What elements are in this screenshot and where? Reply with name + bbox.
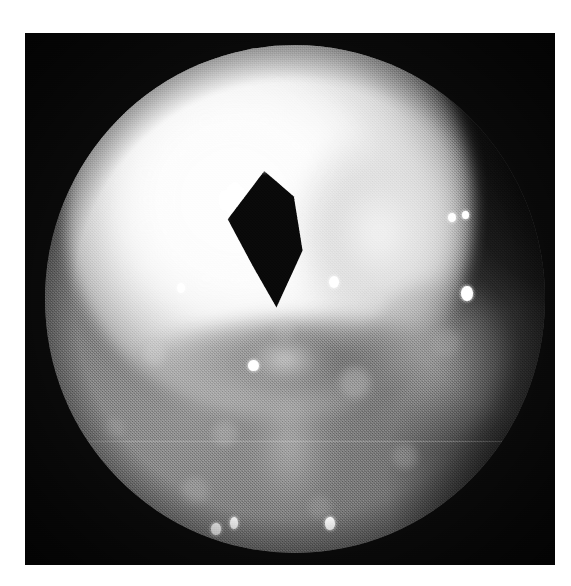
scanline-artifact bbox=[45, 441, 545, 442]
specular-highlight bbox=[230, 517, 238, 529]
tissue-mottle bbox=[45, 269, 545, 553]
page-root bbox=[0, 0, 571, 586]
specular-highlight bbox=[248, 360, 259, 371]
photograph-plate bbox=[25, 33, 555, 565]
specular-highlight bbox=[211, 523, 221, 535]
specular-highlight bbox=[448, 213, 456, 222]
specular-highlight bbox=[461, 286, 473, 301]
specular-highlight bbox=[325, 517, 335, 530]
endoscope-field-of-view bbox=[45, 45, 545, 553]
specular-highlight bbox=[177, 283, 185, 293]
specular-highlight bbox=[462, 211, 469, 219]
